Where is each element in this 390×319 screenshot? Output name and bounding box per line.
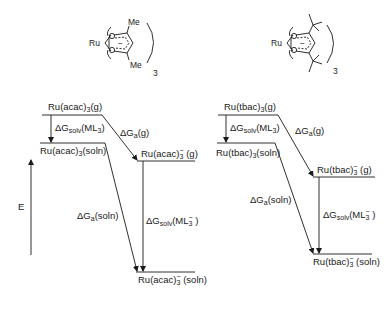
label-acac-soln-neutral: Ru(acac)3(soln) — [40, 145, 106, 157]
energy-axis-label: E — [18, 201, 24, 212]
arrow-dG-a-soln-left — [105, 143, 137, 271]
energy-diagram-canvas: Ru Me Me − 3 Ru − 3 E — [0, 0, 390, 319]
label-dG-solv-ML3-left: ΔGsolv(ML3) — [55, 122, 105, 134]
label-tbac-gas-anion: Ru(tbac)3− (g) — [317, 163, 372, 176]
substituent-bottom-left: Me — [130, 60, 142, 70]
label-dG-a-g-left: ΔGa(g) — [120, 127, 149, 139]
label-tbac-gas-neutral: Ru(tbac)3(g) — [224, 101, 276, 113]
label-dG-a-soln-left: ΔGa(soln) — [77, 210, 118, 222]
label-tbac-soln-neutral: Ru(tbac)3(soln) — [216, 147, 280, 159]
structure-ru-tbac3 — [287, 14, 334, 72]
label-tbac-soln-anion: Ru(tbac)3− (soln) — [313, 255, 380, 268]
left-energy-diagram — [40, 115, 195, 272]
label-dG-solv-ML3-right: ΔGsolv(ML3) — [230, 122, 280, 134]
multiplier-left: 3 — [153, 68, 158, 78]
charge-right: − — [300, 38, 305, 48]
metal-label-right: Ru — [271, 38, 282, 48]
label-dG-solv-anion-right: ΔGsolv(ML3− ) — [323, 208, 375, 221]
label-acac-soln-anion: Ru(acac)3− (soln) — [138, 273, 207, 286]
charge-left: − — [118, 38, 123, 48]
label-dG-a-soln-right: ΔGa(soln) — [250, 194, 291, 206]
substituent-top-left: Me — [128, 17, 140, 27]
label-dG-a-g-right: ΔGa(g) — [295, 125, 324, 137]
label-acac-gas-anion: Ru(acac)3− (g) — [141, 147, 198, 160]
multiplier-right: 3 — [333, 66, 338, 76]
metal-label-left: Ru — [89, 38, 100, 48]
label-acac-gas-neutral: Ru(acac)3(g) — [48, 101, 102, 113]
label-dG-solv-anion-left: ΔGsolv(ML3− ) — [146, 214, 198, 227]
structure-ru-acac3 — [105, 23, 154, 63]
